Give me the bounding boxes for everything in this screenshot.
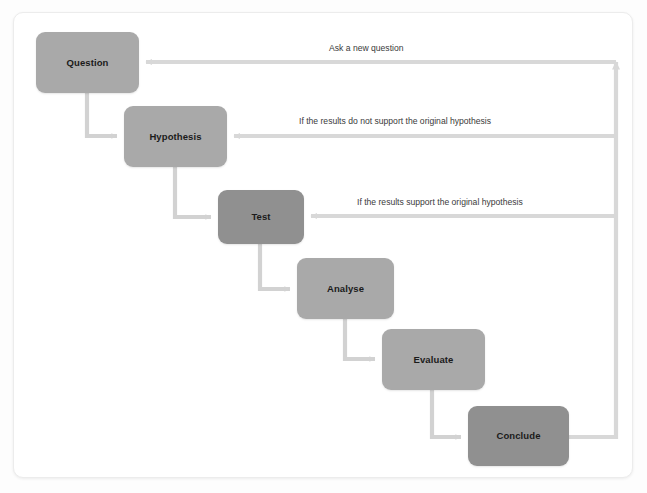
node-evaluate-label: Evaluate [414, 355, 454, 365]
node-hypothesis-label: Hypothesis [149, 132, 201, 142]
connector-analyse-to-evaluate [345, 319, 375, 359]
connector-test-to-analyse [260, 244, 290, 289]
edge-label-new-question: Ask a new question [329, 44, 404, 53]
node-test[interactable]: Test [218, 190, 304, 244]
node-conclude[interactable]: Conclude [468, 406, 569, 466]
flowchart: Question Hypothesis Test Analyse Evaluat… [0, 0, 647, 493]
return-bus [569, 62, 616, 437]
node-question-label: Question [67, 58, 109, 68]
connector-question-to-hypothesis [87, 93, 117, 136]
node-conclude-label: Conclude [496, 431, 540, 441]
connector-hypothesis-to-test [175, 167, 211, 217]
edge-label-not-supported: If the results do not support the origin… [299, 117, 491, 126]
edge-label-supported: If the results support the original hypo… [357, 198, 523, 207]
node-analyse[interactable]: Analyse [297, 258, 394, 319]
node-hypothesis[interactable]: Hypothesis [124, 106, 227, 167]
node-test-label: Test [251, 212, 270, 222]
connector-conclude-to-bus [569, 62, 616, 437]
diagram-canvas: Question Hypothesis Test Analyse Evaluat… [0, 0, 647, 493]
node-evaluate[interactable]: Evaluate [382, 329, 485, 390]
connector-evaluate-to-conclude [432, 390, 461, 437]
node-analyse-label: Analyse [327, 284, 364, 294]
node-question[interactable]: Question [36, 32, 139, 93]
